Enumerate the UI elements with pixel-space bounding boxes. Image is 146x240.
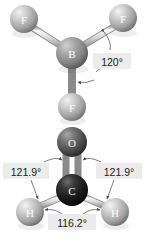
atom-label-c: C — [68, 185, 75, 197]
angle-label-121-9-left: 121.9° — [11, 166, 41, 178]
angle-label-121-9-right: 121.9° — [104, 166, 134, 178]
atom-label-f-right: F — [120, 13, 126, 25]
atom-label-b: B — [68, 48, 75, 60]
atom-label-f-left: F — [21, 14, 27, 26]
atom-label-f-bottom: F — [69, 102, 75, 114]
atom-label-h-right: H — [111, 207, 119, 219]
atom-h-right: H — [101, 198, 129, 230]
angle-annotation-121-9-right: 121.9° — [83, 158, 142, 199]
molecular-diagram-figure: F F B F 120° — [0, 0, 146, 240]
angle-label-120: 120° — [101, 56, 123, 68]
atom-f-right: F — [109, 4, 137, 37]
angle-annotation-121-9-left: 121.9° — [3, 158, 62, 199]
atom-o: O — [57, 127, 87, 157]
angle-label-116-2: 116.2° — [57, 217, 87, 229]
atom-h-left: H — [16, 198, 44, 230]
angle-annotation-116-2: 116.2° — [45, 210, 100, 231]
molecule-formaldehyde: O C H H 121.9° 121.9° — [3, 127, 142, 230]
atom-label-o: O — [68, 137, 76, 149]
atom-c: C — [56, 174, 88, 206]
atom-b-center: B — [56, 37, 88, 74]
molecule-boron-trifluoride: F F B F 120° — [10, 4, 137, 125]
atom-label-h-left: H — [26, 207, 34, 219]
atom-f-left: F — [10, 5, 38, 38]
atom-f-bottom: F — [58, 93, 86, 125]
